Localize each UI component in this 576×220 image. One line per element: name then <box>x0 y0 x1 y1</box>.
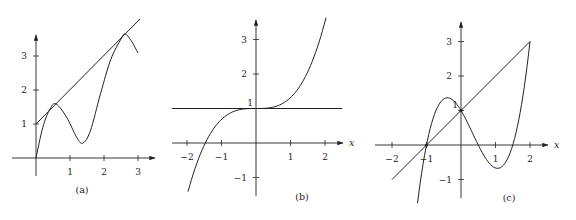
figure-three-panels: 123123(a) x−2−112−1123(b) x−2−112−1123(c… <box>0 0 576 220</box>
y-tick-label: 1 <box>21 119 27 129</box>
y-tick-label: 3 <box>446 37 452 47</box>
x-tick-label: −2 <box>180 152 193 162</box>
x-tick-label: −1 <box>420 154 433 164</box>
x-axis-label: x <box>349 137 355 148</box>
x-tick-label: −1 <box>215 152 228 162</box>
function-curve <box>418 42 530 204</box>
panel-c: x−2−112−1123(c) <box>375 22 560 203</box>
intersection-point <box>425 143 428 146</box>
panel-caption: (c) <box>503 192 516 203</box>
y-tick-label: 3 <box>21 51 27 61</box>
x-tick-label: −2 <box>385 154 398 164</box>
x-tick-label: 3 <box>135 167 141 177</box>
y-tick-label: −1 <box>234 173 247 183</box>
x-tick-label: 1 <box>288 152 294 162</box>
panel-caption: (b) <box>295 191 309 202</box>
x-tick-label: 2 <box>527 154 533 164</box>
x-tick-label: 1 <box>67 167 73 177</box>
y-tick-label: 1 <box>247 98 253 108</box>
function-curve <box>36 34 138 158</box>
panel-caption: (a) <box>75 184 88 195</box>
x-tick-label: 2 <box>322 152 328 162</box>
y-tick-label: 2 <box>446 71 452 81</box>
y-tick-label: 2 <box>241 69 247 79</box>
x-axis-label: x <box>554 139 560 150</box>
function-curve <box>188 18 326 192</box>
reference-line <box>36 19 140 124</box>
y-tick-label: −1 <box>439 175 452 185</box>
intersection-point <box>459 109 462 112</box>
panel-a: 123123(a) <box>12 19 155 195</box>
panel-b: x−2−112−1123(b) <box>172 18 355 202</box>
y-tick-label: 3 <box>241 35 247 45</box>
x-tick-label: 2 <box>101 167 107 177</box>
x-tick-label: 1 <box>493 154 499 164</box>
y-tick-label: 2 <box>21 85 27 95</box>
